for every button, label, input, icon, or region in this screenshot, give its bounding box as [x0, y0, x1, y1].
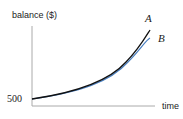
y-tick-500: 500 [7, 93, 22, 104]
series-b-label: B [158, 32, 165, 44]
x-axis-label: time [162, 101, 179, 111]
y-axis-label: balance ($) [12, 10, 57, 20]
series-a-line [32, 30, 150, 99]
series-a-label: A [145, 12, 152, 24]
series-b-line [32, 38, 150, 99]
